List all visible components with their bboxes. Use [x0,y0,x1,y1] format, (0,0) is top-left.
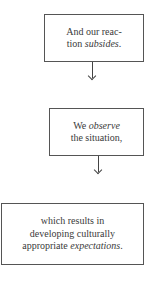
node-line: developing culturally [22,228,123,241]
node-line: And our reac- [66,26,122,39]
node-cultural-expectations: which results in developing culturally a… [1,203,144,265]
emphasis: expectations [70,240,120,251]
emphasis: subsides [85,38,119,49]
node-text: We observe the situation, [71,120,123,145]
node-text: which results in developing culturally a… [22,215,123,253]
node-observe-situation: We observe the situation, [49,108,144,156]
node-line: which results in [22,215,123,228]
arrow-down-icon [92,62,93,78]
node-line: We observe [71,120,123,133]
node-reaction-subsides: And our reac- tion subsides. [44,14,144,62]
node-line: tion subsides. [66,38,122,51]
node-line: appropriate expectations. [22,240,123,253]
node-text: And our reac- tion subsides. [66,26,122,51]
emphasis: observe [89,120,120,131]
node-line: the situation, [71,132,123,145]
arrow-down-icon [98,156,99,172]
